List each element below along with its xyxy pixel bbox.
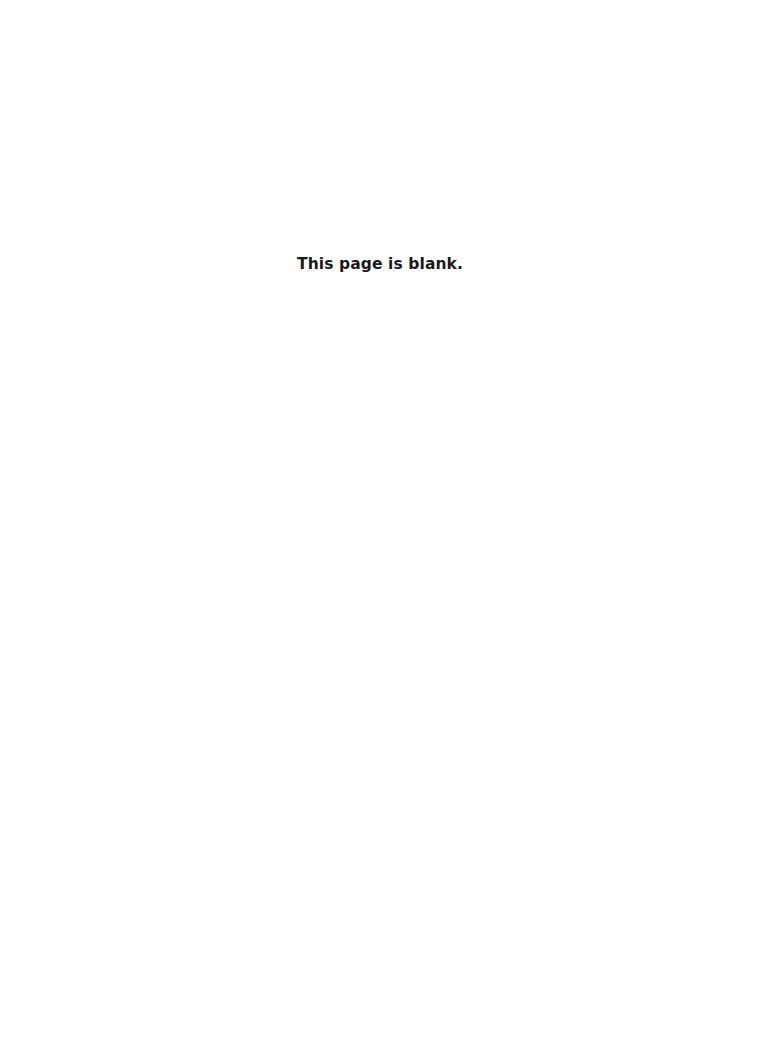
blank-page-notice: This page is blank.	[0, 255, 760, 273]
document-page: This page is blank.	[0, 0, 760, 1042]
